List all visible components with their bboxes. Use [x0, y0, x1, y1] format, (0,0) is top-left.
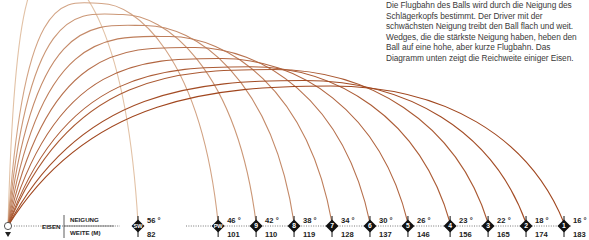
- club-id: 4: [448, 222, 452, 229]
- club-marker-6: 630 °137: [363, 216, 392, 239]
- club-marker-2: 218 °174: [520, 216, 549, 239]
- clubs-label: EISEN: [42, 223, 61, 230]
- club-marker-9: 942 °110: [250, 216, 279, 239]
- club-distance: 82: [147, 230, 155, 239]
- club-id: 8: [292, 222, 296, 229]
- club-marker-sw: SW56 °82: [132, 216, 161, 239]
- club-id: PW: [214, 223, 224, 229]
- club-distance: 128: [341, 230, 354, 239]
- tee-origin-icon: [4, 222, 11, 237]
- club-loft: 22 °: [497, 216, 511, 225]
- club-marker-4: 423 °156: [444, 216, 473, 239]
- club-loft: 26 °: [417, 216, 431, 225]
- golf-trajectory-diagram: EISEN NEIGUNG WEITE (M) SW56 °82PW46 °10…: [0, 0, 589, 240]
- club-marker-1: 116 °183: [558, 216, 587, 239]
- club-loft: 42 °: [265, 216, 279, 225]
- distance-label: WEITE (M): [70, 229, 101, 236]
- club-loft: 30 °: [379, 216, 393, 225]
- club-marker-5: 526 °146: [401, 216, 430, 239]
- club-distance: 146: [417, 230, 430, 239]
- club-id: 2: [524, 222, 528, 229]
- club-distance: 101: [227, 230, 240, 239]
- club-distance: 183: [573, 230, 586, 239]
- description-text: Die Flugbahn des Balls wird durch die Ne…: [386, 0, 586, 64]
- club-id: SW: [133, 223, 143, 229]
- club-markers: SW56 °82PW46 °101942 °110838 °119734 °12…: [132, 216, 587, 239]
- club-marker-7: 734 °128: [326, 216, 355, 239]
- club-marker-pw: PW46 °101: [212, 216, 241, 239]
- club-loft: 46 °: [227, 216, 241, 225]
- trajectory-8: [8, 25, 294, 226]
- club-distance: 137: [379, 230, 392, 239]
- club-id: 1: [562, 222, 566, 229]
- club-loft: 23 °: [459, 216, 473, 225]
- club-loft: 18 °: [535, 216, 549, 225]
- club-id: 6: [368, 222, 372, 229]
- club-id: 7: [330, 222, 334, 229]
- club-loft: 16 °: [573, 216, 587, 225]
- club-distance: 156: [459, 230, 472, 239]
- loft-label: NEIGUNG: [70, 216, 99, 223]
- club-id: 3: [486, 222, 490, 229]
- trajectory-7: [8, 36, 332, 226]
- club-loft: 38 °: [303, 216, 317, 225]
- trajectory-4: [8, 67, 450, 226]
- club-distance: 174: [535, 230, 548, 239]
- club-id: 9: [254, 222, 258, 229]
- club-distance: 110: [265, 230, 277, 239]
- club-marker-8: 838 °119: [288, 216, 317, 239]
- trajectory-2: [8, 81, 526, 227]
- club-marker-3: 322 °165: [482, 216, 511, 239]
- club-id: 5: [406, 222, 410, 229]
- club-distance: 165: [497, 230, 510, 239]
- club-distance: 119: [303, 230, 315, 239]
- club-loft: 34 °: [341, 216, 355, 225]
- trajectory-1: [8, 86, 564, 226]
- club-loft: 56 °: [147, 216, 161, 225]
